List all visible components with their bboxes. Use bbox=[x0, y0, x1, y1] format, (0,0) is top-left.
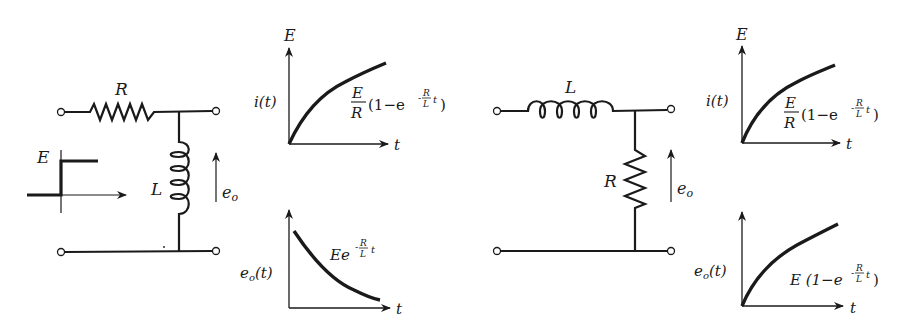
svg-text:L: L bbox=[855, 274, 862, 284]
svg-text:L: L bbox=[359, 249, 366, 259]
circuit-right bbox=[494, 101, 675, 254]
svg-text:R: R bbox=[422, 88, 430, 98]
svg-text:R: R bbox=[783, 114, 795, 132]
resistor-label: R bbox=[114, 79, 128, 99]
svg-text:-: - bbox=[355, 241, 358, 252]
y-axis-label: eo(t) bbox=[694, 262, 727, 281]
svg-text:): ) bbox=[873, 271, 879, 289]
svg-text:L: L bbox=[855, 109, 862, 119]
formula-current: E R (1−e - R L t ) bbox=[783, 94, 879, 132]
svg-text:t: t bbox=[866, 269, 871, 280]
svg-text:t: t bbox=[433, 94, 438, 105]
svg-text:R: R bbox=[855, 263, 863, 273]
formula-voltage: Ee - R L t bbox=[329, 238, 376, 264]
y-axis-label: i(t) bbox=[254, 93, 277, 111]
output-voltage-label: eo bbox=[222, 183, 238, 204]
svg-text:Ee: Ee bbox=[329, 246, 350, 264]
terminal-bottom-left bbox=[58, 249, 65, 256]
svg-text:): ) bbox=[440, 96, 446, 114]
inductor-icon bbox=[501, 101, 667, 118]
rise-curve bbox=[742, 224, 838, 306]
terminal-top-right bbox=[213, 108, 220, 115]
svg-text:L: L bbox=[422, 99, 429, 109]
inductor-icon bbox=[171, 111, 189, 251]
ground-wire bbox=[65, 251, 212, 252]
terminal-top-right bbox=[668, 106, 675, 113]
y-top-label: E bbox=[283, 26, 296, 45]
svg-text:R: R bbox=[359, 238, 367, 248]
svg-text:-: - bbox=[851, 102, 854, 113]
step-amplitude-label: E bbox=[36, 147, 50, 167]
y-axis-label: eo(t) bbox=[240, 264, 273, 283]
svg-text:): ) bbox=[873, 106, 879, 124]
terminal-top-left bbox=[58, 109, 65, 116]
x-axis-label: t bbox=[850, 299, 857, 317]
svg-text:R: R bbox=[855, 98, 863, 108]
svg-text:(1−e: (1−e bbox=[801, 106, 838, 124]
inductor-label: L bbox=[150, 179, 162, 199]
svg-text:R: R bbox=[350, 104, 362, 122]
rl-circuits-diagram: R L E eo E i(t) t E R (1−e - R L t ) eo(… bbox=[0, 0, 921, 334]
svg-text:t: t bbox=[866, 104, 871, 115]
svg-text:E: E bbox=[784, 94, 796, 112]
svg-text:(1−e: (1−e bbox=[368, 96, 405, 114]
formula-current: E R (1−e - R L t ) bbox=[350, 84, 446, 122]
y-top-label: E bbox=[735, 25, 748, 44]
graph-right-voltage bbox=[742, 212, 843, 306]
resistor-icon bbox=[65, 104, 212, 120]
terminal-bottom-right bbox=[213, 248, 220, 255]
circuit-left bbox=[27, 104, 220, 256]
resistor-label: R bbox=[603, 171, 617, 191]
y-axis-label: i(t) bbox=[706, 92, 729, 110]
x-axis-label: t bbox=[394, 136, 401, 154]
terminal-bottom-right bbox=[668, 248, 675, 255]
output-voltage-label: eo bbox=[677, 179, 693, 200]
speck bbox=[163, 246, 165, 248]
decay-curve bbox=[294, 231, 380, 300]
resistor-icon bbox=[625, 110, 645, 251]
terminal-top-left bbox=[494, 108, 501, 115]
svg-text:t: t bbox=[371, 244, 376, 255]
svg-text:-: - bbox=[851, 267, 854, 278]
svg-text:E (1−e: E (1−e bbox=[789, 271, 843, 289]
svg-text:-: - bbox=[418, 92, 421, 103]
terminal-bottom-left bbox=[494, 248, 501, 255]
x-axis-label: t bbox=[846, 135, 853, 153]
x-axis-label: t bbox=[396, 300, 403, 318]
inductor-label: L bbox=[564, 77, 576, 97]
formula-voltage: E (1−e - R L t ) bbox=[789, 263, 879, 289]
svg-text:E: E bbox=[351, 84, 363, 102]
